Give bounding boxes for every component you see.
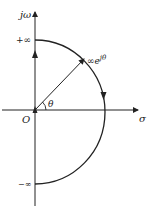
radius-label-superscript: jθ [98,54,107,62]
plus-infinity-label: +∞ [16,35,31,45]
angle-arc [43,102,47,110]
origin-label: O [22,114,30,125]
nyquist-contour-diagram: jω +∞ −∞ O σ θ ∞ejθ [0,0,155,214]
arc-direction-arrow-icon [101,92,107,100]
imaginary-axis-label: jω [18,9,31,20]
radius-label-base: ∞e [87,56,100,66]
minus-infinity-label: −∞ [18,180,31,189]
radius-label: ∞ejθ [87,54,107,66]
axis-direction-arrow-icon [32,50,38,58]
angle-label: θ [48,99,54,109]
real-axis-label: σ [139,113,147,124]
